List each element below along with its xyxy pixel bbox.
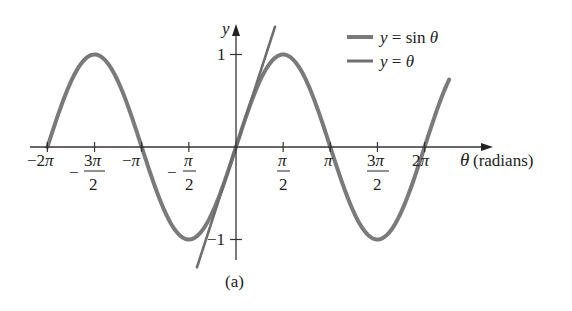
legend-label-sin: y = sin θ bbox=[378, 28, 438, 47]
x-axis-arrow-icon bbox=[481, 143, 493, 151]
svg-text:−: − bbox=[167, 163, 177, 182]
legend: y = sin θ y = θ bbox=[347, 28, 438, 71]
y-tick-label-neg1: −1 bbox=[207, 230, 225, 249]
svg-text:2: 2 bbox=[89, 175, 98, 194]
figure-caption: (a) bbox=[225, 272, 244, 291]
svg-text:−π: −π bbox=[122, 151, 141, 170]
svg-text:2: 2 bbox=[185, 175, 194, 194]
svg-text:3π: 3π bbox=[367, 151, 385, 170]
x-axis-label-symbol: θ bbox=[460, 149, 469, 170]
legend-label-theta: y = θ bbox=[378, 52, 414, 71]
y-axis-arrow-icon bbox=[232, 24, 240, 36]
y-tick-label-1: 1 bbox=[217, 45, 226, 64]
svg-text:2: 2 bbox=[373, 175, 382, 194]
svg-text:3π: 3π bbox=[84, 151, 102, 170]
svg-text:π: π bbox=[278, 151, 287, 170]
svg-text:−2π: −2π bbox=[27, 151, 54, 170]
svg-text:2: 2 bbox=[279, 175, 288, 194]
svg-text:π: π bbox=[184, 151, 193, 170]
y-axis-label: y bbox=[220, 19, 230, 38]
svg-text:π: π bbox=[324, 151, 333, 170]
svg-text:−: − bbox=[69, 163, 79, 182]
svg-text:2π: 2π bbox=[412, 151, 430, 170]
sine-vs-theta-chart: y 1 −1 −2π − 3π 2 −π − π 2 π 2 π 3π 2 2π… bbox=[0, 0, 572, 311]
x-axis-label-unit: (radians) bbox=[473, 151, 533, 170]
